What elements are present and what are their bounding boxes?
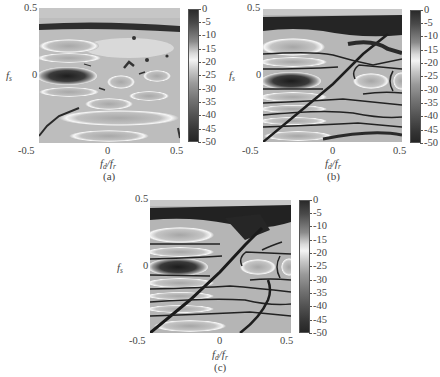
xtick-right-b: 0.5 <box>393 146 406 157</box>
ytick-zero-a: 0 <box>32 70 37 81</box>
xlabel-c: fd/fr <box>212 348 228 362</box>
ylabel-b: fs <box>229 69 235 83</box>
ytick-top-c: 0.5 <box>135 194 148 205</box>
ytick-top-b: 0.5 <box>247 3 260 14</box>
ytick-zero-b: 0 <box>256 70 261 81</box>
heatmap-c <box>150 200 291 333</box>
xtick-right-a: 0.5 <box>170 146 183 157</box>
caption-a: (a) <box>103 170 115 182</box>
xtick-mid-b: 0 <box>330 146 335 157</box>
xtick-right-c: 0.5 <box>280 336 293 347</box>
heatmap-a <box>39 8 180 143</box>
caption-c: (c) <box>214 361 226 373</box>
heatmap-b <box>263 9 402 142</box>
ylabel-c: fs <box>117 261 123 275</box>
xtick-mid-a: 0 <box>105 146 110 157</box>
xtick-left-a: -0.5 <box>18 146 35 157</box>
xtick-left-c: -0.5 <box>129 336 146 347</box>
caption-b: (b) <box>327 170 340 182</box>
ytick-zero-c: 0 <box>143 261 148 272</box>
xlabel-a: fd/fr <box>100 157 116 171</box>
ylabel-a: fs <box>6 69 12 83</box>
ytick-top-a: 0.5 <box>24 3 37 14</box>
xtick-mid-c: 0 <box>217 336 222 347</box>
xtick-left-b: -0.5 <box>242 146 259 157</box>
xlabel-b: fd/fr <box>325 157 341 171</box>
